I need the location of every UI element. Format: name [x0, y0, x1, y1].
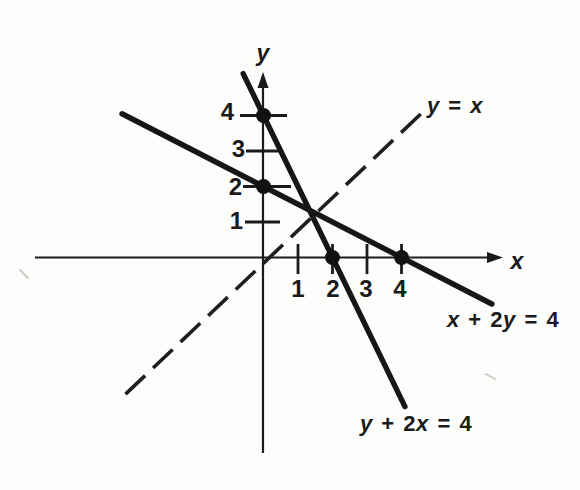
line-label-x-plus-2y-equals-4: x + 2y = 4 [447, 309, 559, 331]
x-axis-label: x [511, 250, 524, 273]
x-axis-label-text: x [511, 248, 524, 274]
y-tick-label-1: 1 [230, 209, 243, 233]
x-tick-label-3: 3 [359, 277, 372, 301]
y-axis-label: y [257, 42, 270, 65]
eq-y2x-var2: x [416, 411, 429, 436]
line-label-y-plus-2x-equals-4: y + 2x = 4 [360, 413, 472, 435]
eq-x2y-rhs: = 4 [516, 307, 559, 332]
y-tick-label-3: 3 [232, 137, 245, 161]
graph-figure: x y y = x x + 2y = 4 y + 2x = 4 1 2 3 4 … [0, 0, 580, 490]
eq-x2y-var2: y [503, 307, 516, 332]
eq-y2x-op: + 2 [373, 411, 416, 436]
y-tick-label-2: 2 [229, 175, 242, 199]
eq-x2y-var1: x [447, 307, 460, 332]
y-tick-label-4: 4 [221, 100, 234, 124]
scan-speckle-1 [486, 374, 495, 379]
point-0-2 [256, 179, 271, 194]
eq-y2x-var1: y [360, 411, 373, 436]
x-axis-arrow-icon [487, 252, 503, 263]
y-axis-arrow-icon [258, 72, 269, 88]
line-label-y-equals-x: y = x [427, 95, 483, 117]
x-tick-label-2: 2 [326, 277, 339, 301]
point-2-0 [325, 250, 340, 265]
point-0-4 [256, 108, 271, 123]
y-axis-label-text: y [257, 40, 270, 66]
eq-yx-var2: x [470, 93, 483, 118]
scan-speckle-0 [20, 270, 28, 278]
line-y-plus-2x-equals-4 [243, 74, 405, 407]
eq-y2x-rhs: = 4 [429, 411, 472, 436]
x-tick-label-1: 1 [291, 277, 304, 301]
x-tick-label-4: 4 [393, 277, 406, 301]
eq-x2y-op: + 2 [460, 307, 503, 332]
coordinate-plane [0, 0, 580, 490]
point-4-0 [394, 250, 409, 265]
eq-yx-var1: y [427, 93, 440, 118]
eq-yx-op: = [440, 93, 471, 118]
